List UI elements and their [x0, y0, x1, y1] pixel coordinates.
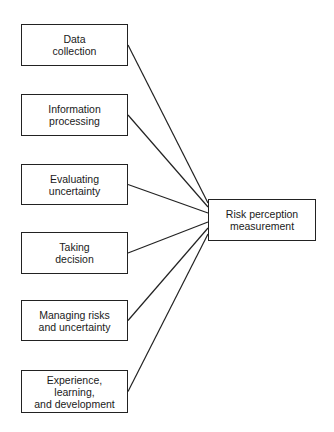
source-box: Managing risks and uncertainty	[21, 300, 128, 341]
connector-line	[128, 185, 208, 214]
connector-line	[128, 45, 208, 203]
source-box: Experience, learning, and development	[21, 370, 128, 413]
source-box-label: Information processing	[48, 103, 101, 127]
source-box-label: Data collection	[53, 33, 97, 57]
source-box: Evaluating uncertainty	[21, 164, 128, 205]
connector-line	[128, 228, 208, 321]
connector-line	[128, 115, 208, 207]
source-box-label: Managing risks and uncertainty	[39, 309, 111, 333]
source-box-label: Taking decision	[55, 241, 94, 265]
source-box: Information processing	[21, 94, 128, 136]
connector-line	[128, 222, 208, 253]
source-box: Taking decision	[21, 232, 128, 274]
source-box-label: Experience, learning, and development	[34, 374, 115, 410]
connector-line	[128, 234, 208, 392]
source-box: Data collection	[21, 24, 128, 66]
source-box-label: Evaluating uncertainty	[49, 173, 100, 197]
target-box-label: Risk perception measurement	[226, 208, 298, 232]
target-box: Risk perception measurement	[208, 199, 316, 241]
